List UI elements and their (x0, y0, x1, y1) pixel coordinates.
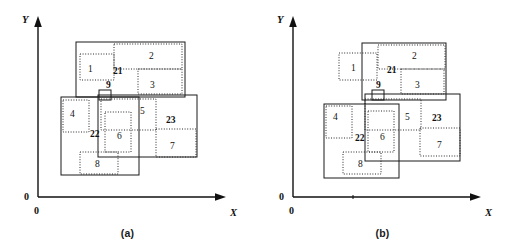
data-rect-3 (138, 69, 182, 94)
caption-a: (a) (0, 227, 255, 239)
rect-label-5: 5 (140, 106, 145, 116)
data-rect-4 (63, 100, 89, 132)
rect-label-3: 3 (150, 80, 155, 90)
rect-label-6: 6 (117, 131, 122, 141)
data-rect-7 (156, 129, 196, 157)
mbr-rect-21 (362, 43, 446, 100)
diagram-b-canvas: Y X 0 0 123456789212223 (255, 0, 510, 251)
rect-label-4: 4 (70, 109, 75, 119)
diagram-a-canvas: Y X 0 0 123456789212223 (0, 0, 255, 251)
rect-label-9: 9 (106, 80, 111, 90)
rect-label-23: 23 (432, 113, 442, 123)
x-axis-label: X (484, 207, 493, 218)
data-rect-1 (80, 54, 114, 80)
rect-label-3: 3 (415, 80, 420, 90)
data-rect-5 (101, 99, 156, 130)
rect-label-22: 22 (90, 129, 100, 139)
rect-label-1: 1 (88, 64, 93, 74)
rect-label-9: 9 (376, 80, 381, 90)
data-rect-2 (114, 44, 182, 69)
y-origin-label: 0 (279, 191, 284, 202)
rect-label-21: 21 (113, 66, 123, 76)
rect-label-23: 23 (166, 115, 176, 125)
rect-label-8: 8 (95, 159, 100, 169)
rect-label-2: 2 (149, 51, 154, 61)
mbr-rect-23 (98, 95, 197, 157)
rect-label-7: 7 (170, 141, 175, 151)
y-axis-label: Y (277, 14, 285, 25)
data-rect-4 (326, 106, 352, 138)
data-rect-1 (339, 53, 377, 80)
rect-label-6: 6 (380, 132, 385, 142)
rect-label-1: 1 (351, 63, 356, 73)
label-group-b: 123456789212223 (333, 51, 442, 169)
figure-panel-b: Y X 0 0 123456789212223 (b) (255, 0, 510, 251)
dotted-rect-group-a (63, 44, 196, 174)
figure-panel-a: Y X 0 0 123456789212223 (a) (0, 0, 255, 251)
x-axis-label: X (229, 207, 238, 218)
solid-rect-group-a (61, 42, 197, 175)
rect-label-7: 7 (437, 140, 442, 150)
x-axis-a (38, 193, 226, 201)
rect-label-5: 5 (405, 112, 410, 122)
rect-label-22: 22 (355, 133, 365, 143)
x-axis-b (293, 193, 481, 201)
y-axis-arrowhead (289, 16, 297, 27)
x-axis-arrowhead (470, 193, 481, 201)
x-origin-label: 0 (34, 205, 39, 216)
caption-b: (b) (255, 227, 510, 239)
rect-label-4: 4 (333, 112, 338, 122)
y-axis-label: Y (22, 14, 30, 25)
x-axis-arrowhead (215, 193, 226, 201)
y-axis-a (34, 16, 42, 197)
rect-label-8: 8 (358, 159, 363, 169)
y-axis-b (289, 16, 297, 197)
rect-label-2: 2 (412, 51, 417, 61)
x-origin-label: 0 (289, 205, 294, 216)
y-axis-arrowhead (34, 16, 42, 27)
data-rect-3 (401, 69, 444, 94)
y-origin-label: 0 (24, 191, 29, 202)
rect-label-21: 21 (387, 65, 397, 75)
